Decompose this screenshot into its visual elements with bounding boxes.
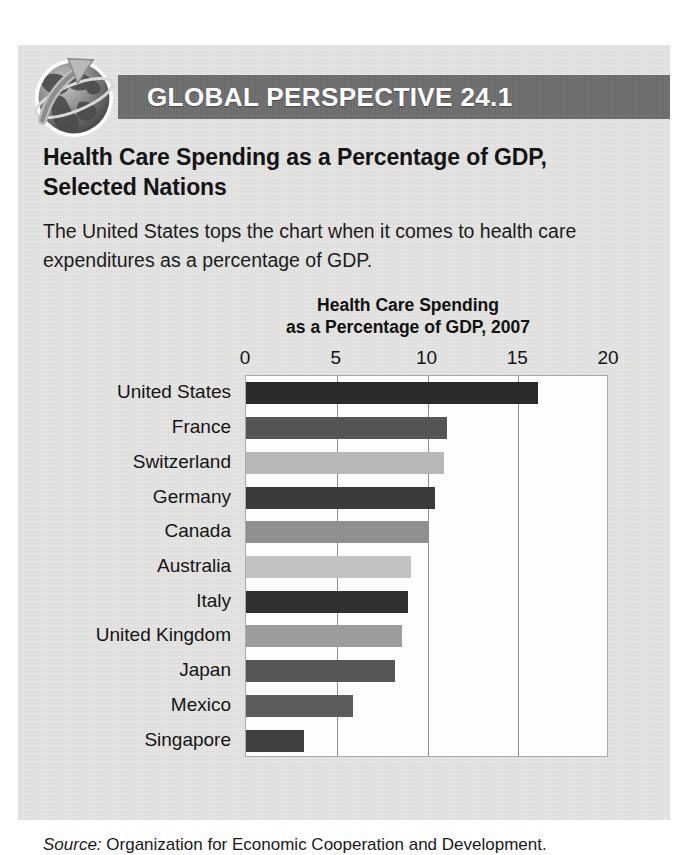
category-label-japan: Japan (179, 659, 231, 681)
category-label-canada: Canada (164, 520, 231, 542)
category-axis-labels: United StatesFranceSwitzerlandGermanyCan… (18, 375, 239, 757)
x-tick-5: 5 (330, 347, 341, 369)
category-label-australia: Australia (157, 555, 231, 577)
bar-united-states (246, 382, 538, 404)
feature-header-band: GLOBAL PERSPECTIVE 24.1 (118, 75, 670, 119)
category-label-united-kingdom: United Kingdom (96, 624, 231, 646)
global-perspective-feature-box: GLOBAL PERSPECTIVE 24.1 (18, 45, 670, 820)
x-axis-tick-labels: 05101520 (245, 347, 608, 373)
bar-fill (246, 591, 408, 613)
bar-chart: Health Care Spending as a Percentage of … (18, 295, 670, 815)
bar-fill (246, 452, 444, 474)
category-label-italy: Italy (196, 590, 231, 612)
category-label-germany: Germany (153, 486, 231, 508)
bar-singapore (246, 730, 304, 752)
x-tick-20: 20 (597, 347, 618, 369)
x-tick-10: 10 (416, 347, 437, 369)
bar-united-kingdom (246, 625, 402, 647)
bar-fill (246, 660, 395, 682)
bar-fill (246, 556, 411, 578)
bar-australia (246, 556, 411, 578)
bar-switzerland (246, 452, 444, 474)
category-label-mexico: Mexico (171, 694, 231, 716)
bar-series (246, 376, 607, 756)
bar-fill (246, 521, 428, 543)
bar-fill (246, 417, 447, 439)
chart-title-line2: as a Percentage of GDP, 2007 (208, 317, 608, 339)
feature-header-title: GLOBAL PERSPECTIVE 24.1 (118, 82, 513, 113)
feature-heading: Health Care Spending as a Percentage of … (43, 142, 643, 203)
bar-canada (246, 521, 428, 543)
source-text: Organization for Economic Cooperation an… (102, 835, 547, 854)
x-tick-0: 0 (240, 347, 251, 369)
bar-germany (246, 487, 435, 509)
category-label-france: France (172, 416, 231, 438)
bar-japan (246, 660, 395, 682)
bar-italy (246, 591, 408, 613)
chart-title: Health Care Spending as a Percentage of … (208, 295, 608, 339)
source-label: Source: (43, 835, 102, 854)
feature-heading-line1: Health Care Spending as a Percentage of … (43, 144, 547, 170)
bar-fill (246, 625, 402, 647)
globe-with-arrow-icon (27, 50, 121, 144)
bar-fill (246, 487, 435, 509)
bar-mexico (246, 695, 353, 717)
plot-area (245, 375, 608, 757)
bar-fill (246, 695, 353, 717)
category-label-united-states: United States (117, 381, 231, 403)
feature-body-text: The United States tops the chart when it… (43, 217, 650, 274)
bar-fill (246, 382, 538, 404)
source-note: Source: Organization for Economic Cooper… (43, 835, 547, 855)
bar-france (246, 417, 447, 439)
chart-title-line1: Health Care Spending (317, 295, 499, 315)
feature-heading-line2: Selected Nations (43, 174, 227, 200)
category-label-switzerland: Switzerland (133, 451, 231, 473)
bar-fill (246, 730, 304, 752)
category-label-singapore: Singapore (144, 729, 231, 751)
x-tick-15: 15 (507, 347, 528, 369)
